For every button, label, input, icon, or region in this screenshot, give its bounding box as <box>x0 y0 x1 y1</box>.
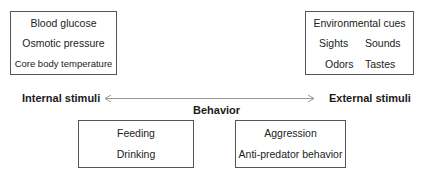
behavior-item-anti-predator: Anti-predator behavior <box>236 148 345 160</box>
behavior-box-internal: Feeding Drinking <box>78 120 194 168</box>
double-arrow-icon <box>0 0 430 176</box>
behavior-item-drinking: Drinking <box>79 148 193 160</box>
behavior-item-aggression: Aggression <box>236 127 345 139</box>
behavior-item-feeding: Feeding <box>79 127 193 139</box>
behavior-box-external: Aggression Anti-predator behavior <box>235 120 346 168</box>
